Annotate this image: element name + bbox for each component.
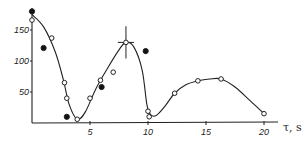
y-tick-label: 150: [14, 25, 29, 35]
axes: [32, 8, 278, 123]
x-axis-label: τ, s: [283, 121, 302, 134]
open-data-point: [124, 40, 129, 45]
open-data-point: [196, 79, 201, 84]
open-data-point: [219, 77, 224, 82]
filled-data-point: [64, 114, 69, 119]
open-data-point: [146, 109, 151, 114]
fitted-curve: [32, 15, 264, 120]
open-data-point: [30, 18, 35, 23]
ticks: 510152050100150: [14, 25, 269, 137]
open-data-point: [111, 70, 116, 75]
open-data-point: [98, 78, 103, 83]
open-data-point: [88, 96, 93, 101]
x-tick-label: 20: [258, 127, 269, 137]
open-data-point: [49, 36, 54, 41]
open-data-point: [172, 91, 177, 96]
open-data-point: [262, 111, 267, 116]
x-axis: [32, 122, 278, 123]
open-data-point: [65, 96, 70, 101]
x-tick-label: 15: [201, 127, 212, 137]
y-tick-label: 50: [19, 87, 29, 97]
y-tick-label: 100: [14, 56, 29, 66]
x-tick-label: 5: [87, 127, 93, 137]
x-tick-label: 10: [143, 127, 153, 137]
filled-data-point: [29, 9, 34, 14]
open-data-point: [62, 80, 67, 85]
open-data-point: [75, 117, 80, 122]
filled-data-point: [41, 45, 46, 50]
filled-data-point: [99, 84, 104, 89]
data-points: [29, 9, 266, 122]
chart: 510152050100150 τ, s: [0, 0, 304, 146]
open-data-point: [147, 115, 152, 120]
filled-data-point: [143, 48, 148, 53]
